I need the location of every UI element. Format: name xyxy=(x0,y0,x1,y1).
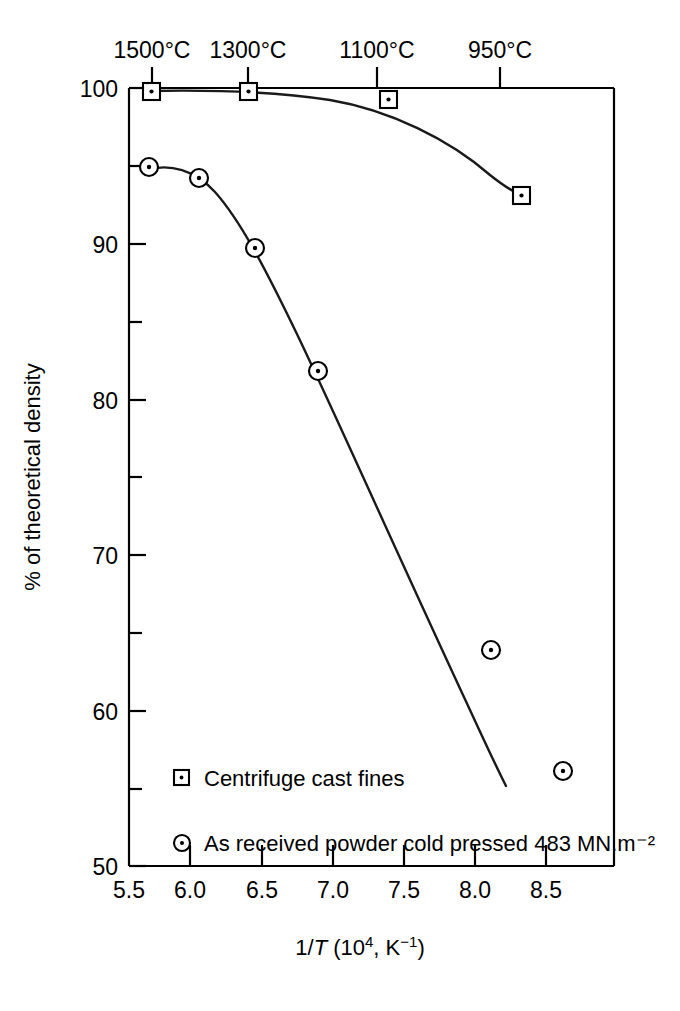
plot-frame xyxy=(129,88,614,866)
legend-item-as-received-powder: As received powder cold pressed 483 MN.m… xyxy=(174,831,655,856)
data-point-circle-6 xyxy=(554,762,572,780)
y-tick-label-90: 90 xyxy=(92,232,118,258)
y-tick-label-60: 60 xyxy=(92,699,118,725)
legend-square-dot-icon xyxy=(180,776,184,780)
y-tick-label-100: 100 xyxy=(80,76,118,102)
top-temperature-axis: 1500°C 1300°C 1100°C 950°C xyxy=(114,37,533,88)
x-title-suffix: (10 xyxy=(327,935,365,960)
x-title-sup-minus1: −1 xyxy=(400,933,417,950)
data-point-circle-5 xyxy=(482,641,500,659)
x-title-close: ) xyxy=(417,935,424,960)
data-point-square-3 xyxy=(380,91,397,108)
legend-circle-dot-icon xyxy=(180,841,184,845)
y-axis-title: % of theoretical density xyxy=(20,363,45,590)
series-markers-as-received-powder xyxy=(140,158,572,780)
x-tick-label-6-5: 6.5 xyxy=(246,877,278,903)
chart-figure: 1500°C 1300°C 1100°C 950°C 100 90 80 70 … xyxy=(0,0,680,1011)
top-tick-label-1300c: 1300°C xyxy=(210,37,287,63)
svg-text:1/T (104, K−1): 1/T (104, K−1) xyxy=(295,933,424,961)
data-point-circle-2 xyxy=(190,169,208,187)
data-point-circle-3 xyxy=(246,239,264,257)
top-tick-label-950c: 950°C xyxy=(468,37,532,63)
x-axis-title: 1/T (104, K−1) xyxy=(295,933,424,961)
legend-label-as-received-powder: As received powder cold pressed 483 MN.m… xyxy=(204,831,655,856)
x-tick-label-5-5: 5.5 xyxy=(113,877,145,903)
legend-label-centrifuge-cast-fines: Centrifuge cast fines xyxy=(204,766,405,791)
y-axis-title-text: % of theoretical density xyxy=(20,363,45,590)
x-tick-label-7-0: 7.0 xyxy=(317,877,349,903)
series-curve-as-received-powder xyxy=(146,167,506,786)
x-tick-label-7-5: 7.5 xyxy=(388,877,420,903)
data-point-square-4 xyxy=(513,187,530,204)
data-point-square-1 xyxy=(143,83,160,100)
y-tick-label-70: 70 xyxy=(92,543,118,569)
top-tick-label-1500c: 1500°C xyxy=(114,37,191,63)
data-point-square-2 xyxy=(240,83,257,100)
x-title-prefix: 1/ xyxy=(295,935,314,960)
data-point-circle-4 xyxy=(309,362,327,380)
y-tick-label-80: 80 xyxy=(92,388,118,414)
x-tick-label-8-0: 8.0 xyxy=(459,877,491,903)
chart-legend: Centrifuge cast fines As received powder… xyxy=(174,766,655,856)
chart-svg: 1500°C 1300°C 1100°C 950°C 100 90 80 70 … xyxy=(0,0,680,1011)
x-title-mid: , K xyxy=(373,935,400,960)
top-tick-label-1100c: 1100°C xyxy=(339,37,414,63)
x-tick-label-6-0: 6.0 xyxy=(174,877,206,903)
data-point-circle-1 xyxy=(140,158,158,176)
x-title-sup-4: 4 xyxy=(365,933,373,950)
legend-item-centrifuge-cast-fines: Centrifuge cast fines xyxy=(174,766,405,791)
y-axis-ticks: 100 90 80 70 60 50 xyxy=(80,76,146,880)
x-tick-label-8-5: 8.5 xyxy=(530,877,562,903)
